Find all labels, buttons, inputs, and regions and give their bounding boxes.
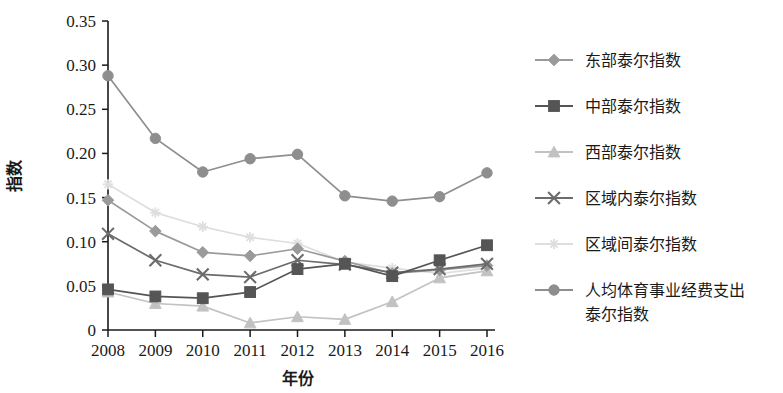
x-axis-tick-label: 2011 <box>233 341 266 360</box>
circle-marker-icon <box>387 196 397 206</box>
triangle-marker-icon <box>386 296 398 307</box>
chart-axes: 0.350.300.250.200.150.100.05020082009201… <box>5 12 504 388</box>
line-chart: 0.350.300.250.200.150.100.05020082009201… <box>0 0 783 393</box>
data-point-star <box>150 207 160 217</box>
data-point-square <box>103 284 114 295</box>
circle-marker-icon <box>198 167 208 177</box>
square-marker-icon <box>103 284 114 295</box>
data-point-square <box>339 258 350 269</box>
circle-marker-icon <box>292 149 302 159</box>
data-point-triangle <box>386 296 398 307</box>
legend-item-label: 人均体育事业经费支出 <box>585 281 745 300</box>
x-axis-tick-label: 2014 <box>375 341 410 360</box>
diamond-marker-icon <box>548 54 560 66</box>
legend-item-label-line2: 泰尔指数 <box>585 305 649 324</box>
chart-legend: 东部泰尔指数中部泰尔指数西部泰尔指数区域内泰尔指数区域间泰尔指数人均体育事业经费… <box>535 51 745 324</box>
y-axis-tick-label: 0.35 <box>66 12 96 31</box>
diamond-marker-icon <box>244 250 256 262</box>
data-point-diamond <box>548 54 560 66</box>
data-point-star <box>245 232 255 242</box>
circle-marker-icon <box>549 285 559 295</box>
data-point-square <box>245 287 256 298</box>
x-axis-tick-label: 2008 <box>91 341 125 360</box>
data-point-circle <box>387 196 397 206</box>
diamond-marker-icon <box>481 260 493 272</box>
diamond-marker-icon <box>150 225 162 237</box>
legend-item-label: 西部泰尔指数 <box>585 143 681 162</box>
data-point-square <box>434 255 445 266</box>
square-marker-icon <box>434 255 445 266</box>
data-point-diamond <box>197 247 209 259</box>
data-point-circle <box>549 285 559 295</box>
data-point-circle <box>103 71 113 81</box>
legend-item-5[interactable]: 人均体育事业经费支出泰尔指数 <box>535 281 745 324</box>
data-point-circle <box>292 149 302 159</box>
y-axis-tick-label: 0.10 <box>66 233 96 252</box>
square-marker-icon <box>197 293 208 304</box>
y-axis-tick-label: 0.30 <box>66 56 96 75</box>
data-point-square <box>549 101 560 112</box>
data-point-square <box>482 240 493 251</box>
legend-item-1[interactable]: 中部泰尔指数 <box>535 97 681 116</box>
legend-item-4[interactable]: 区域间泰尔指数 <box>535 235 697 254</box>
square-marker-icon <box>150 291 161 302</box>
data-point-square <box>387 271 398 282</box>
data-point-square <box>197 293 208 304</box>
square-marker-icon <box>482 240 493 251</box>
data-point-diamond <box>481 260 493 272</box>
data-point-square <box>292 264 303 275</box>
x-axis-tick-label: 2013 <box>328 341 362 360</box>
y-axis-tick-label: 0.20 <box>66 144 96 163</box>
legend-item-label: 中部泰尔指数 <box>585 97 681 116</box>
legend-item-2[interactable]: 西部泰尔指数 <box>535 143 681 162</box>
y-axis-tick-label: 0 <box>88 321 97 340</box>
data-point-diamond <box>244 250 256 262</box>
legend-item-label: 东部泰尔指数 <box>585 51 681 70</box>
x-axis-tick-label: 2009 <box>138 341 172 360</box>
data-point-circle <box>245 154 255 164</box>
data-point-circle <box>150 133 160 143</box>
data-point-diamond <box>150 225 162 237</box>
x-axis-tick-label: 2012 <box>281 341 315 360</box>
y-axis-tick-label: 0.25 <box>66 100 96 119</box>
series-line <box>108 76 487 201</box>
data-point-circle <box>198 167 208 177</box>
x-axis-tick-label: 2010 <box>186 341 220 360</box>
series-5 <box>103 71 492 207</box>
legend-item-0[interactable]: 东部泰尔指数 <box>535 51 681 70</box>
data-point-star <box>103 179 113 189</box>
x-axis-title: 年份 <box>282 369 315 388</box>
square-marker-icon <box>387 271 398 282</box>
square-marker-icon <box>245 287 256 298</box>
data-point-star <box>549 239 559 249</box>
circle-marker-icon <box>434 191 444 201</box>
circle-marker-icon <box>245 154 255 164</box>
chart-figure: 0.350.300.250.200.150.100.05020082009201… <box>0 0 783 393</box>
circle-marker-icon <box>150 133 160 143</box>
data-point-circle <box>434 191 444 201</box>
y-axis-tick-label: 0.15 <box>66 189 96 208</box>
y-axis-title: 指数 <box>5 159 24 192</box>
legend-item-label: 区域间泰尔指数 <box>585 235 697 254</box>
data-point-square <box>150 291 161 302</box>
legend-item-label: 区域内泰尔指数 <box>585 189 697 208</box>
circle-marker-icon <box>482 168 492 178</box>
circle-marker-icon <box>103 71 113 81</box>
data-point-star <box>198 222 208 232</box>
square-marker-icon <box>339 258 350 269</box>
data-point-circle <box>340 191 350 201</box>
x-axis-tick-label: 2016 <box>470 341 504 360</box>
square-marker-icon <box>549 101 560 112</box>
data-point-circle <box>482 168 492 178</box>
x-axis-tick-label: 2015 <box>423 341 457 360</box>
data-point-x <box>149 254 161 266</box>
circle-marker-icon <box>340 191 350 201</box>
diamond-marker-icon <box>102 194 114 206</box>
square-marker-icon <box>292 264 303 275</box>
data-point-diamond <box>102 194 114 206</box>
diamond-marker-icon <box>197 247 209 259</box>
legend-item-3[interactable]: 区域内泰尔指数 <box>535 189 697 208</box>
y-axis-tick-label: 0.05 <box>66 277 96 296</box>
